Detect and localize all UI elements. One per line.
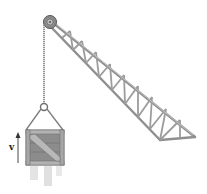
velocity-label: v: [9, 142, 14, 152]
slings: [26, 109, 63, 130]
crane-diagram: [0, 0, 207, 194]
crate: [26, 130, 64, 165]
velocity-arrow: [16, 132, 21, 163]
crane-boom-lacing: [62, 31, 180, 140]
hook-ring: [41, 104, 48, 111]
motion-blur: [30, 166, 62, 186]
boom-shading: [56, 24, 193, 135]
pulley: [44, 16, 57, 29]
